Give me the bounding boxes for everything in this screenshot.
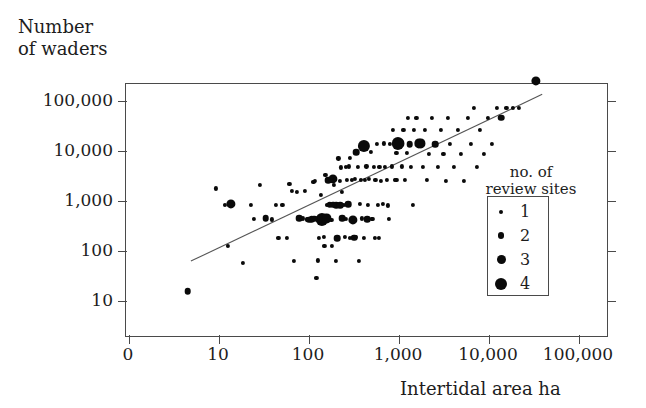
legend-dot-swatch [488,255,514,264]
legend-row: 3 [488,247,550,272]
legend-label: 1 [520,202,530,221]
legend-dot [497,255,506,264]
x-axis-tick-label: 10,000 [458,344,517,364]
legend-dot [495,278,507,290]
x-axis-tick-label: 10 [207,344,229,364]
wader-scatter-figure: Number of waders Intertidal area ha 1010… [0,0,646,408]
legend-dot [499,210,503,214]
size-legend: no. of review sites 1234 [487,196,549,296]
legend-dot [498,232,505,239]
legend-title: no. of review sites [466,164,596,198]
legend-box: 1234 [487,196,549,296]
legend-row: 1 [488,199,550,224]
x-axis-tick-label: 1,000 [374,344,423,364]
legend-row: 4 [488,271,550,296]
legend-row: 2 [488,223,550,248]
legend-dot-swatch [488,210,514,214]
x-axis-tick-label: 100,000 [543,344,613,364]
legend-label: 3 [520,250,530,269]
legend-label: 2 [520,226,530,245]
legend-dot-swatch [488,278,514,290]
legend-label: 4 [520,274,530,293]
legend-dot-swatch [488,232,514,239]
x-axis-tick-label: 0 [123,344,134,364]
x-axis-tick-label: 100 [292,344,324,364]
